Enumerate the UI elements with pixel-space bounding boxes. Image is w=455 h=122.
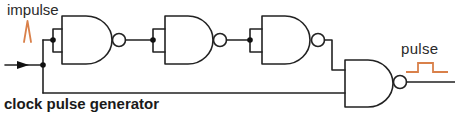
junction-dot-gate-3 (247, 37, 253, 43)
nand-gate-4 (345, 60, 455, 107)
nand-gate-3 (250, 16, 345, 70)
pulse-label: pulse (401, 40, 438, 57)
diagram-caption: clock pulse generator (4, 95, 159, 112)
junction-dot-gate-1 (50, 37, 56, 43)
junction-dot-gate-2 (150, 37, 156, 43)
impulse-label: impulse (7, 1, 59, 18)
pulse-waveform-icon (406, 63, 448, 72)
input-arrow-icon (17, 61, 29, 69)
nand-gate-2 (153, 16, 250, 64)
nand-gate-1 (53, 16, 153, 64)
bypass-wire (43, 40, 345, 93)
junction-dot-input (40, 62, 46, 68)
impulse-waveform-icon (24, 21, 31, 42)
